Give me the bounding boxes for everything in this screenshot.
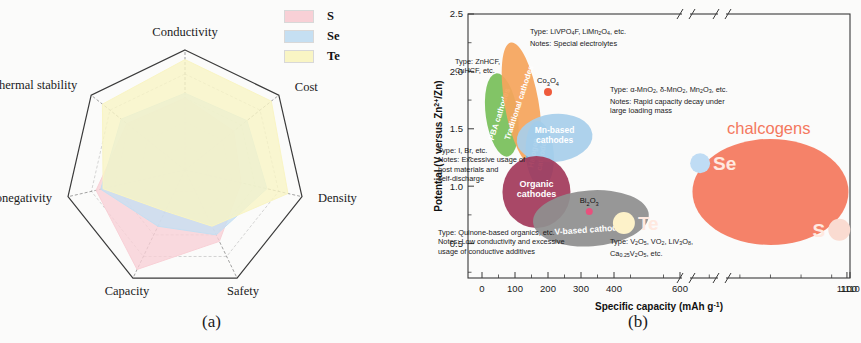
radar-axis-label-cost: Cost xyxy=(295,80,318,94)
x-tick-300: 300 xyxy=(573,283,589,294)
x-tick-400: 400 xyxy=(606,283,622,294)
chalcogens-title: chalcogens xyxy=(727,119,810,138)
point-te xyxy=(613,212,635,234)
annotation-vanadium: Type: V2O5, VO2, LiV3O8,Ca0.25V2O5, etc. xyxy=(610,237,693,260)
annotation-mn-based: Type: α-MnO2, δ-MnO2, Mn2O3, etc.Notes: … xyxy=(610,85,728,115)
point-label-co3o4: Co3O4 xyxy=(537,76,559,87)
panel-b-bubble-chart: PBA cathodesTraditional cathodesHalogenc… xyxy=(430,0,861,343)
annotation-organic: Type: Quinone-based organics, etc.Notes:… xyxy=(438,228,565,256)
legend-item-se: Se xyxy=(284,28,380,44)
radar-axis-label-thermal-stability: Thermal stability xyxy=(0,78,78,92)
radar-axis-label-capacity: Capacity xyxy=(105,284,150,298)
y-tick-2.5: 2.5 xyxy=(450,8,463,19)
x-tick-600: 600 xyxy=(672,283,688,294)
legend-swatch-se xyxy=(284,30,314,43)
y-tick-1.5: 1.5 xyxy=(450,123,463,134)
radar-axis-label-conductivity: Conductivity xyxy=(152,25,218,39)
legend-label-te: Te xyxy=(327,49,340,64)
panel-a-radar-chart: ConductivityCostDensitySafetyCapacityEle… xyxy=(0,0,430,343)
radar-axis-label-density: Density xyxy=(318,191,358,205)
element-label-te: Te xyxy=(638,213,659,234)
radar-axis-label-electronegativity: Electronegativity xyxy=(0,191,53,205)
panel-b-caption: (b) xyxy=(628,312,648,332)
x-axis-title: Specific capacity (mAh g-1) xyxy=(595,301,723,313)
figure-container: ConductivityCostDensitySafetyCapacityEle… xyxy=(0,0,861,343)
bubble-label-mn-based-cathodes: Mn-basedcathodes xyxy=(535,125,575,145)
annotation-halogen: Type: I, Br, etc.Notes: Excessive usage … xyxy=(438,146,525,184)
legend-label-se: Se xyxy=(327,29,340,44)
radar-series-group xyxy=(96,60,288,270)
legend-swatch-s xyxy=(284,10,314,23)
legend-swatch-te xyxy=(284,50,314,63)
plot-bubbles-group: PBA cathodesTraditional cathodesHalogenc… xyxy=(480,40,848,251)
x-tick-0: 0 xyxy=(479,283,484,294)
radar-legend: S Se Te xyxy=(284,8,380,68)
x-tick-1110: 1110 xyxy=(840,283,860,294)
point-co3o4 xyxy=(544,88,552,96)
point-bi2o3 xyxy=(586,208,593,215)
x-tick-200: 200 xyxy=(540,283,556,294)
element-label-s: S xyxy=(813,220,826,241)
annotation-traditional: Type: LiVPO4F, LiMn2O4, etc.Notes: Speci… xyxy=(530,27,626,48)
radar-axis-label-safety: Safety xyxy=(227,284,260,298)
legend-item-te: Te xyxy=(284,48,380,64)
point-s xyxy=(828,219,850,241)
legend-label-s: S xyxy=(327,9,334,24)
element-label-se: Se xyxy=(713,153,736,174)
legend-item-s: S xyxy=(284,8,380,24)
x-tick-100: 100 xyxy=(507,283,523,294)
annotation-pba: Type: ZnHCF,CuHCF, etc. xyxy=(455,57,500,76)
panel-a-caption: (a) xyxy=(202,312,221,332)
point-se xyxy=(690,153,710,173)
